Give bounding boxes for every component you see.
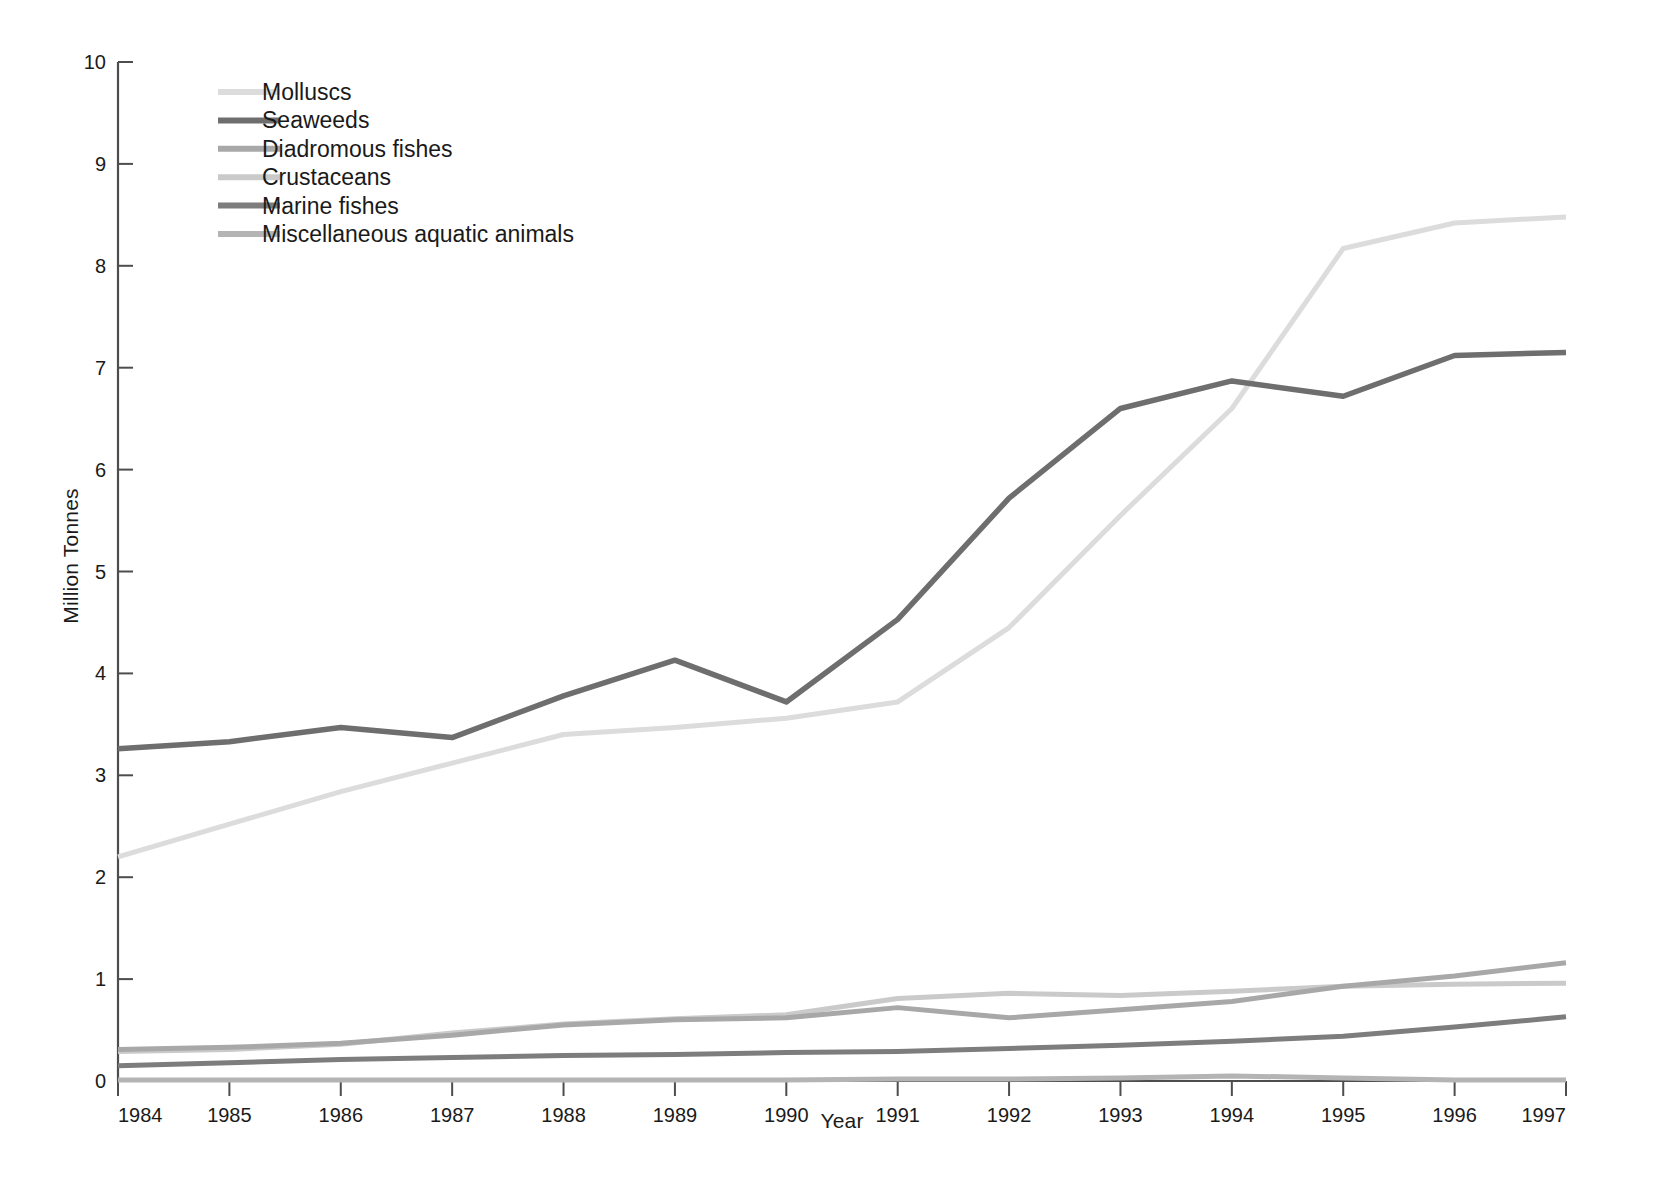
y-tick-label: 3 <box>95 764 106 786</box>
x-tick-label: 1985 <box>207 1104 252 1126</box>
chart-background <box>0 0 1660 1202</box>
line-chart-figure: 012345678910 198419851986198719881989199… <box>0 0 1660 1202</box>
legend-label-diadromous-fishes: Diadromous fishes <box>262 136 452 162</box>
legend-label-marine-fishes: Marine fishes <box>262 193 399 219</box>
x-tick-label: 1988 <box>541 1104 586 1126</box>
y-tick-label: 0 <box>95 1070 106 1092</box>
x-tick-label: 1991 <box>875 1104 920 1126</box>
y-tick-label: 8 <box>95 255 106 277</box>
x-tick-label: 1984 <box>118 1104 163 1126</box>
legend-label-molluscs: Molluscs <box>262 79 351 105</box>
y-tick-label: 9 <box>95 153 106 175</box>
legend-label-crustaceans: Crustaceans <box>262 164 391 190</box>
y-tick-label: 4 <box>95 662 106 684</box>
y-tick-label: 7 <box>95 357 106 379</box>
y-tick-label: 10 <box>84 51 106 73</box>
x-tick-label: 1986 <box>319 1104 364 1126</box>
x-tick-label: 1995 <box>1321 1104 1366 1126</box>
x-tick-label: 1994 <box>1210 1104 1255 1126</box>
x-tick-label: 1996 <box>1432 1104 1477 1126</box>
x-tick-label: 1989 <box>653 1104 698 1126</box>
x-tick-label: 1992 <box>987 1104 1032 1126</box>
x-tick-label: 1997 <box>1522 1104 1567 1126</box>
y-tick-label: 1 <box>95 968 106 990</box>
y-tick-label: 6 <box>95 459 106 481</box>
legend-label-seaweeds: Seaweeds <box>262 107 369 133</box>
y-axis-title: Million Tonnes <box>59 488 82 624</box>
y-tick-label: 5 <box>95 561 106 583</box>
y-tick-label: 2 <box>95 866 106 888</box>
x-tick-label: 1990 <box>764 1104 809 1126</box>
x-tick-label: 1987 <box>430 1104 475 1126</box>
x-tick-label: 1993 <box>1098 1104 1143 1126</box>
x-axis-title: Year <box>820 1109 863 1132</box>
legend-label-miscellaneous-aquatic-animals: Miscellaneous aquatic animals <box>262 221 574 247</box>
